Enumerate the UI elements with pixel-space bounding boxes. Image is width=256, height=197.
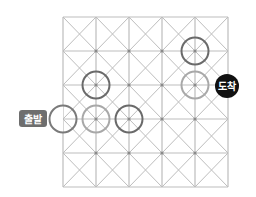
intersection-dot	[193, 117, 196, 120]
intersection-dot	[160, 151, 163, 154]
grid-lines	[63, 17, 228, 187]
end-label: 도착	[215, 74, 239, 98]
intersection-dot	[127, 117, 130, 120]
intersection-dot	[94, 83, 97, 86]
intersection-dot	[94, 49, 97, 52]
end-label-text: 도착	[218, 80, 237, 92]
intersection-dot	[193, 83, 196, 86]
intersection-dot	[193, 49, 196, 52]
start-label-text: 출발	[24, 113, 43, 125]
intersection-dot	[127, 49, 130, 52]
start-circle-fill	[50, 106, 63, 133]
intersection-dot	[127, 83, 130, 86]
intersection-dot	[127, 151, 130, 154]
intersection-dot	[94, 151, 97, 154]
start-label: 출발	[19, 110, 47, 127]
intersection-dot	[160, 117, 163, 120]
grid-path-diagram: 출발 도착	[0, 0, 256, 197]
intersection-dot	[94, 117, 97, 120]
intersection-dot	[193, 151, 196, 154]
intersection-dot	[160, 83, 163, 86]
intersection-dot	[160, 49, 163, 52]
